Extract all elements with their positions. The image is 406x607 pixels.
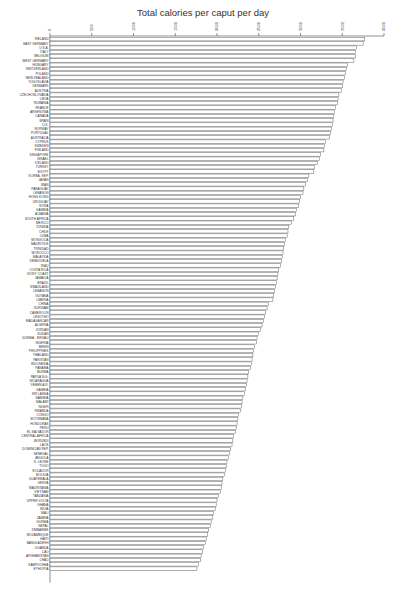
bar bbox=[50, 294, 274, 297]
bar bbox=[50, 230, 288, 233]
bar bbox=[50, 221, 291, 224]
bar bbox=[50, 217, 294, 220]
bar bbox=[50, 323, 262, 326]
country-label: ETHIOPIA bbox=[34, 567, 50, 571]
bar bbox=[50, 42, 363, 45]
bar bbox=[50, 473, 225, 476]
bar bbox=[50, 174, 309, 177]
bar bbox=[50, 285, 275, 288]
bar bbox=[50, 375, 248, 378]
bar bbox=[50, 63, 347, 66]
bar bbox=[50, 127, 331, 130]
bar bbox=[50, 140, 326, 143]
bar bbox=[50, 110, 335, 113]
x-tick-label: 4000 bbox=[381, 21, 386, 31]
bar bbox=[50, 336, 257, 339]
bar bbox=[50, 101, 337, 104]
bar bbox=[50, 272, 278, 275]
bar bbox=[50, 481, 222, 484]
bar bbox=[50, 46, 356, 49]
bar bbox=[50, 148, 324, 151]
bar bbox=[50, 123, 332, 126]
bar bbox=[50, 311, 265, 314]
x-tick-label: 1000 bbox=[131, 21, 136, 31]
bar bbox=[50, 302, 269, 305]
bar bbox=[50, 247, 284, 250]
bar bbox=[50, 366, 250, 369]
bar bbox=[50, 72, 346, 75]
bar bbox=[50, 119, 333, 122]
bar bbox=[50, 439, 233, 442]
bar bbox=[50, 452, 230, 455]
bar bbox=[50, 550, 203, 553]
bar bbox=[50, 503, 216, 506]
bar bbox=[50, 157, 320, 160]
bar bbox=[50, 460, 227, 463]
x-tick-label: 3500 bbox=[340, 21, 345, 31]
x-tick-label: 2000 bbox=[214, 21, 219, 31]
bar bbox=[50, 494, 219, 497]
bar bbox=[50, 358, 252, 361]
bars bbox=[50, 37, 365, 570]
bar bbox=[50, 183, 306, 186]
bar bbox=[50, 511, 214, 514]
bar bbox=[50, 400, 242, 403]
bar-chart: 05001000150020002500300035004000 IRELAND… bbox=[0, 0, 406, 607]
bar bbox=[50, 353, 253, 356]
bar bbox=[50, 50, 356, 53]
bar bbox=[50, 259, 281, 262]
bar bbox=[50, 362, 251, 365]
bar bbox=[50, 298, 273, 301]
bar bbox=[50, 208, 296, 211]
bar bbox=[50, 97, 338, 100]
bar bbox=[50, 242, 285, 245]
bar bbox=[50, 345, 255, 348]
bar bbox=[50, 426, 236, 429]
bar bbox=[50, 178, 307, 181]
bar bbox=[50, 341, 256, 344]
bar bbox=[50, 144, 325, 147]
bar bbox=[50, 528, 209, 531]
bar bbox=[50, 409, 240, 412]
x-tick-label: 0 bbox=[47, 28, 52, 31]
bar bbox=[50, 558, 200, 561]
bar bbox=[50, 136, 330, 139]
bar bbox=[50, 187, 304, 190]
x-tick-label: 3000 bbox=[298, 21, 303, 31]
bar bbox=[50, 435, 234, 438]
bar bbox=[50, 499, 217, 502]
bar bbox=[50, 469, 225, 472]
bar bbox=[50, 456, 229, 459]
bar bbox=[50, 392, 245, 395]
bar bbox=[50, 563, 199, 566]
bar bbox=[50, 191, 303, 194]
bar bbox=[50, 268, 279, 271]
bar bbox=[50, 264, 280, 267]
bar bbox=[50, 546, 204, 549]
bar bbox=[50, 67, 346, 70]
bar bbox=[50, 490, 220, 493]
bar bbox=[50, 430, 235, 433]
bar bbox=[50, 537, 206, 540]
bar bbox=[50, 76, 345, 79]
country-labels: IRELANDEAST GERMANYU.S.A.ITALYBELGIUMWES… bbox=[20, 37, 50, 570]
bar bbox=[50, 417, 238, 420]
bar bbox=[50, 200, 300, 203]
bar bbox=[50, 477, 223, 480]
bar bbox=[50, 332, 259, 335]
bar bbox=[50, 251, 283, 254]
bar bbox=[50, 131, 331, 134]
bar bbox=[50, 443, 232, 446]
bar bbox=[50, 238, 285, 241]
x-tick-label: 1500 bbox=[173, 21, 178, 31]
bar bbox=[50, 153, 321, 156]
bar bbox=[50, 413, 239, 416]
bar bbox=[50, 93, 339, 96]
bar bbox=[50, 80, 343, 83]
bar bbox=[50, 306, 267, 309]
bar bbox=[50, 447, 230, 450]
bar bbox=[50, 225, 289, 228]
bar bbox=[50, 277, 277, 280]
bar bbox=[50, 204, 299, 207]
bar bbox=[50, 533, 208, 536]
